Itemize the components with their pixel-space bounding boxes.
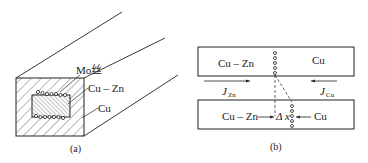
panel-b-caption: (b): [270, 141, 282, 153]
cu-zn-core: [32, 95, 70, 117]
j-zn-subscript: Zn: [228, 91, 236, 99]
bar-top-left-edge: [16, 12, 122, 78]
shifted-marker-column: [291, 105, 294, 128]
diffusion-diagram: Mo丝 Cu – Zn Cu (a) Cu – Zn Cu J Zn J Cu …: [0, 0, 368, 163]
top-cu-label: Cu: [312, 54, 325, 66]
cu-zn-label: Cu – Zn: [88, 82, 125, 94]
panel-b-kirkendall: Cu – Zn Cu J Zn J Cu Cu – Zn Δ x Cu (b): [198, 47, 354, 153]
delta-x-label: Δ x: [275, 110, 290, 122]
marker-shift-dashed-line: [275, 75, 292, 102]
bottom-cu-zn-label: Cu – Zn: [222, 110, 259, 122]
cu-label: Cu: [98, 102, 111, 114]
top-cu-zn-label: Cu – Zn: [218, 57, 255, 69]
panel-a-composite-bar: Mo丝 Cu – Zn Cu (a): [16, 12, 178, 155]
panel-a-caption: (a): [70, 143, 81, 155]
j-cu-subscript: Cu: [326, 91, 335, 99]
mo-wire-label: Mo丝: [76, 64, 102, 76]
bottom-cu-label: Cu: [314, 110, 327, 122]
